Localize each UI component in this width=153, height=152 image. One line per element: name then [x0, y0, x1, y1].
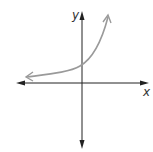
y-axis-up-arrow-icon: [80, 11, 85, 20]
x-axis-left-arrow-icon: [16, 81, 25, 86]
x-axis-label: x: [142, 85, 151, 99]
exponential-curve: [27, 17, 108, 77]
y-axis-label: y: [71, 8, 80, 22]
y-axis-down-arrow-icon: [80, 140, 85, 149]
coordinate-plane: y x: [0, 0, 153, 152]
